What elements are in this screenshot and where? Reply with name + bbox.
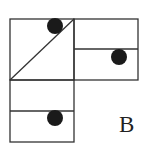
diagonal-divider <box>10 19 74 80</box>
dot-top-right <box>111 49 127 65</box>
figure-label: B <box>119 113 134 136</box>
dot-bottom-left <box>47 110 63 126</box>
dot-top-left <box>47 18 63 34</box>
